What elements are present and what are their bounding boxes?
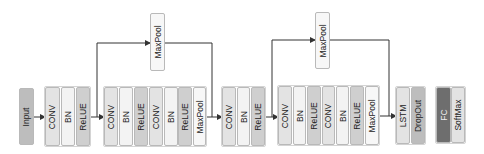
layer-g4-relue2: ReLUE	[350, 86, 364, 145]
layer-g1-conv: CONV	[45, 87, 60, 146]
layer-label: BN	[295, 110, 305, 122]
layer-g3-relue: ReLUE	[251, 87, 265, 146]
layer-fc: FC	[436, 87, 451, 143]
layer-label: LSTM	[398, 104, 408, 127]
layer-label: CONV	[224, 104, 234, 129]
layer-g4-bn1: BN	[293, 86, 306, 145]
layer-label: DropOut	[413, 99, 423, 131]
layer-label: MaxPool	[153, 25, 163, 58]
layer-lstm: LSTM	[396, 87, 410, 144]
layer-skip2-maxpool: MaxPool	[315, 12, 330, 69]
layer-label: ReLUE	[253, 103, 263, 130]
layer-g3-bn: BN	[237, 87, 250, 146]
layer-label: MaxPool	[195, 100, 205, 133]
layer-label: CONV	[48, 104, 58, 129]
layer-g2-bn2: BN	[164, 87, 178, 146]
layer-g2-conv1: CONV	[104, 87, 118, 146]
layer-g3-conv: CONV	[222, 87, 236, 146]
layer-input: Input	[19, 88, 34, 145]
layer-g2-conv2: CONV	[149, 87, 163, 146]
layer-g1-relue: ReLUE	[76, 87, 90, 146]
layer-label: ReLUE	[309, 102, 319, 129]
layer-label: CONV	[106, 104, 116, 129]
layer-label: MaxPool	[318, 24, 328, 57]
layer-g2-bn1: BN	[119, 87, 133, 146]
layer-g1-bn: BN	[61, 87, 75, 146]
layer-dropout: DropOut	[411, 87, 425, 144]
layer-label: SoftMax	[453, 99, 463, 130]
layer-label: ReLUE	[352, 102, 362, 129]
layer-g4-conv1: CONV	[278, 86, 292, 145]
layer-g2-relue1: ReLUE	[134, 87, 148, 146]
layer-label: BN	[121, 111, 131, 123]
layer-label: CONV	[280, 103, 290, 128]
architecture-diagram: InputCONVBNReLUECONVBNReLUECONVBNReLUEMa…	[0, 0, 484, 154]
layer-label: BN	[338, 110, 348, 122]
layer-g4-conv2: CONV	[322, 86, 335, 145]
layer-g2-maxpool: MaxPool	[193, 87, 206, 146]
layer-label: ReLUE	[180, 103, 190, 130]
layer-label: MaxPool	[367, 99, 377, 132]
layer-g4-relue1: ReLUE	[307, 86, 321, 145]
layer-g4-maxpool: MaxPool	[365, 86, 379, 145]
layer-label: BN	[239, 111, 249, 123]
layer-label: ReLUE	[78, 103, 88, 130]
layer-label: FC	[439, 109, 449, 120]
layer-label: ReLUE	[136, 103, 146, 130]
layer-label: CONV	[324, 103, 334, 128]
layer-g4-bn2: BN	[336, 86, 349, 145]
layer-g2-relue2: ReLUE	[178, 87, 192, 146]
layer-skip1-maxpool: MaxPool	[150, 13, 165, 71]
layer-label: CONV	[151, 104, 161, 129]
layer-label: Input	[22, 107, 32, 126]
layer-label: BN	[166, 111, 176, 123]
layer-softmax: SoftMax	[451, 87, 465, 143]
layer-label: BN	[63, 111, 73, 123]
